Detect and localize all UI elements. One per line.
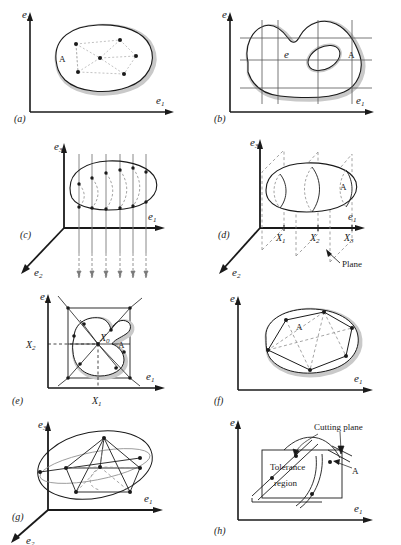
region-label-d: A [340,182,347,192]
panel-id-h: (h) [214,525,226,537]
axis-label-e3: e3 [38,418,47,432]
cutting-plane-annotation-h: Cutting plane [314,422,363,432]
panel-id-d: (d) [218,229,230,241]
tick-label-x2: X2 [309,232,320,245]
region-label-e: A [118,340,125,350]
region-label-a: A [59,54,66,64]
axis-label-e2: e2 [22,8,31,22]
tolerance-region-annotation-h: Tolerance [270,462,305,472]
cutting-plane-curves-h [252,437,352,508]
panel-a: e2 e1 A (a) [0,0,200,128]
axis-label-e1: e1 [146,370,154,384]
panel-id-c: (c) [20,229,32,241]
region-callout-h [333,459,352,468]
ellipsoid-outline-g [32,422,158,509]
axis-label-e1: e1 [144,492,152,506]
region-label-h: A [352,466,359,476]
axis-label-e2: e2 [40,290,49,304]
panel-id-a: (a) [14,113,26,125]
axis-label-e1: e1 [354,502,362,516]
panel-id-e: (e) [12,395,24,407]
probe-arrows-c [77,253,148,278]
plane-annotation-d: Plane [342,259,362,269]
region-label-b: A [348,50,355,60]
panel-d: e3 e1 e2 [200,128,401,286]
tolerance-rectangle-h [262,450,342,498]
tolerance-region-annotation-line2-h: region [274,478,297,488]
panel-id-f: (f) [214,395,224,407]
axes-g [11,421,163,543]
axis-label-e2: e2 [222,8,231,22]
region-blob-c [70,161,157,210]
axis-label-e1: e1 [354,372,362,386]
element-label-b: e [284,48,289,60]
panel-f: e2 e1 A (f) [200,286,401,410]
panel-id-b: (b) [214,113,226,125]
axis-label-e3: e3 [250,136,259,150]
tick-label-x2-e: X2 [25,339,36,352]
region-blob-f [266,309,360,375]
axis-label-e2: e2 [230,416,239,430]
axis-label-e1: e1 [156,94,164,108]
region-blob-a [56,25,154,93]
plane-callout-d [326,249,340,263]
axis-label-e1: e1 [148,210,156,224]
tick-label-x1: X1 [275,232,286,245]
axis-label-e1: e1 [356,94,364,108]
panel-g: e3 e1 e2 [0,410,200,545]
figure-root: e2 e1 A (a) [0,0,401,545]
axis-label-e2: e2 [26,534,35,545]
panel-id-g: (g) [12,511,24,523]
panel-h: e2 e1 [200,410,401,545]
axis-label-e2: e2 [230,292,239,306]
hidden-edges-g [66,438,140,492]
panel-b: e2 e1 e A (b) [200,0,401,128]
axis-label-e1: e1 [348,210,356,224]
axis-label-e3: e3 [54,140,63,154]
tick-label-x3: X3 [343,232,354,245]
region-label-f: A [296,322,303,332]
tick-label-x1-e: X1 [91,395,102,408]
axis-label-e2: e2 [34,266,43,280]
axis-label-e2: e2 [232,266,241,280]
panel-c: e3 e1 e2 [0,128,200,286]
panel-e: e2 e1 [0,286,200,410]
